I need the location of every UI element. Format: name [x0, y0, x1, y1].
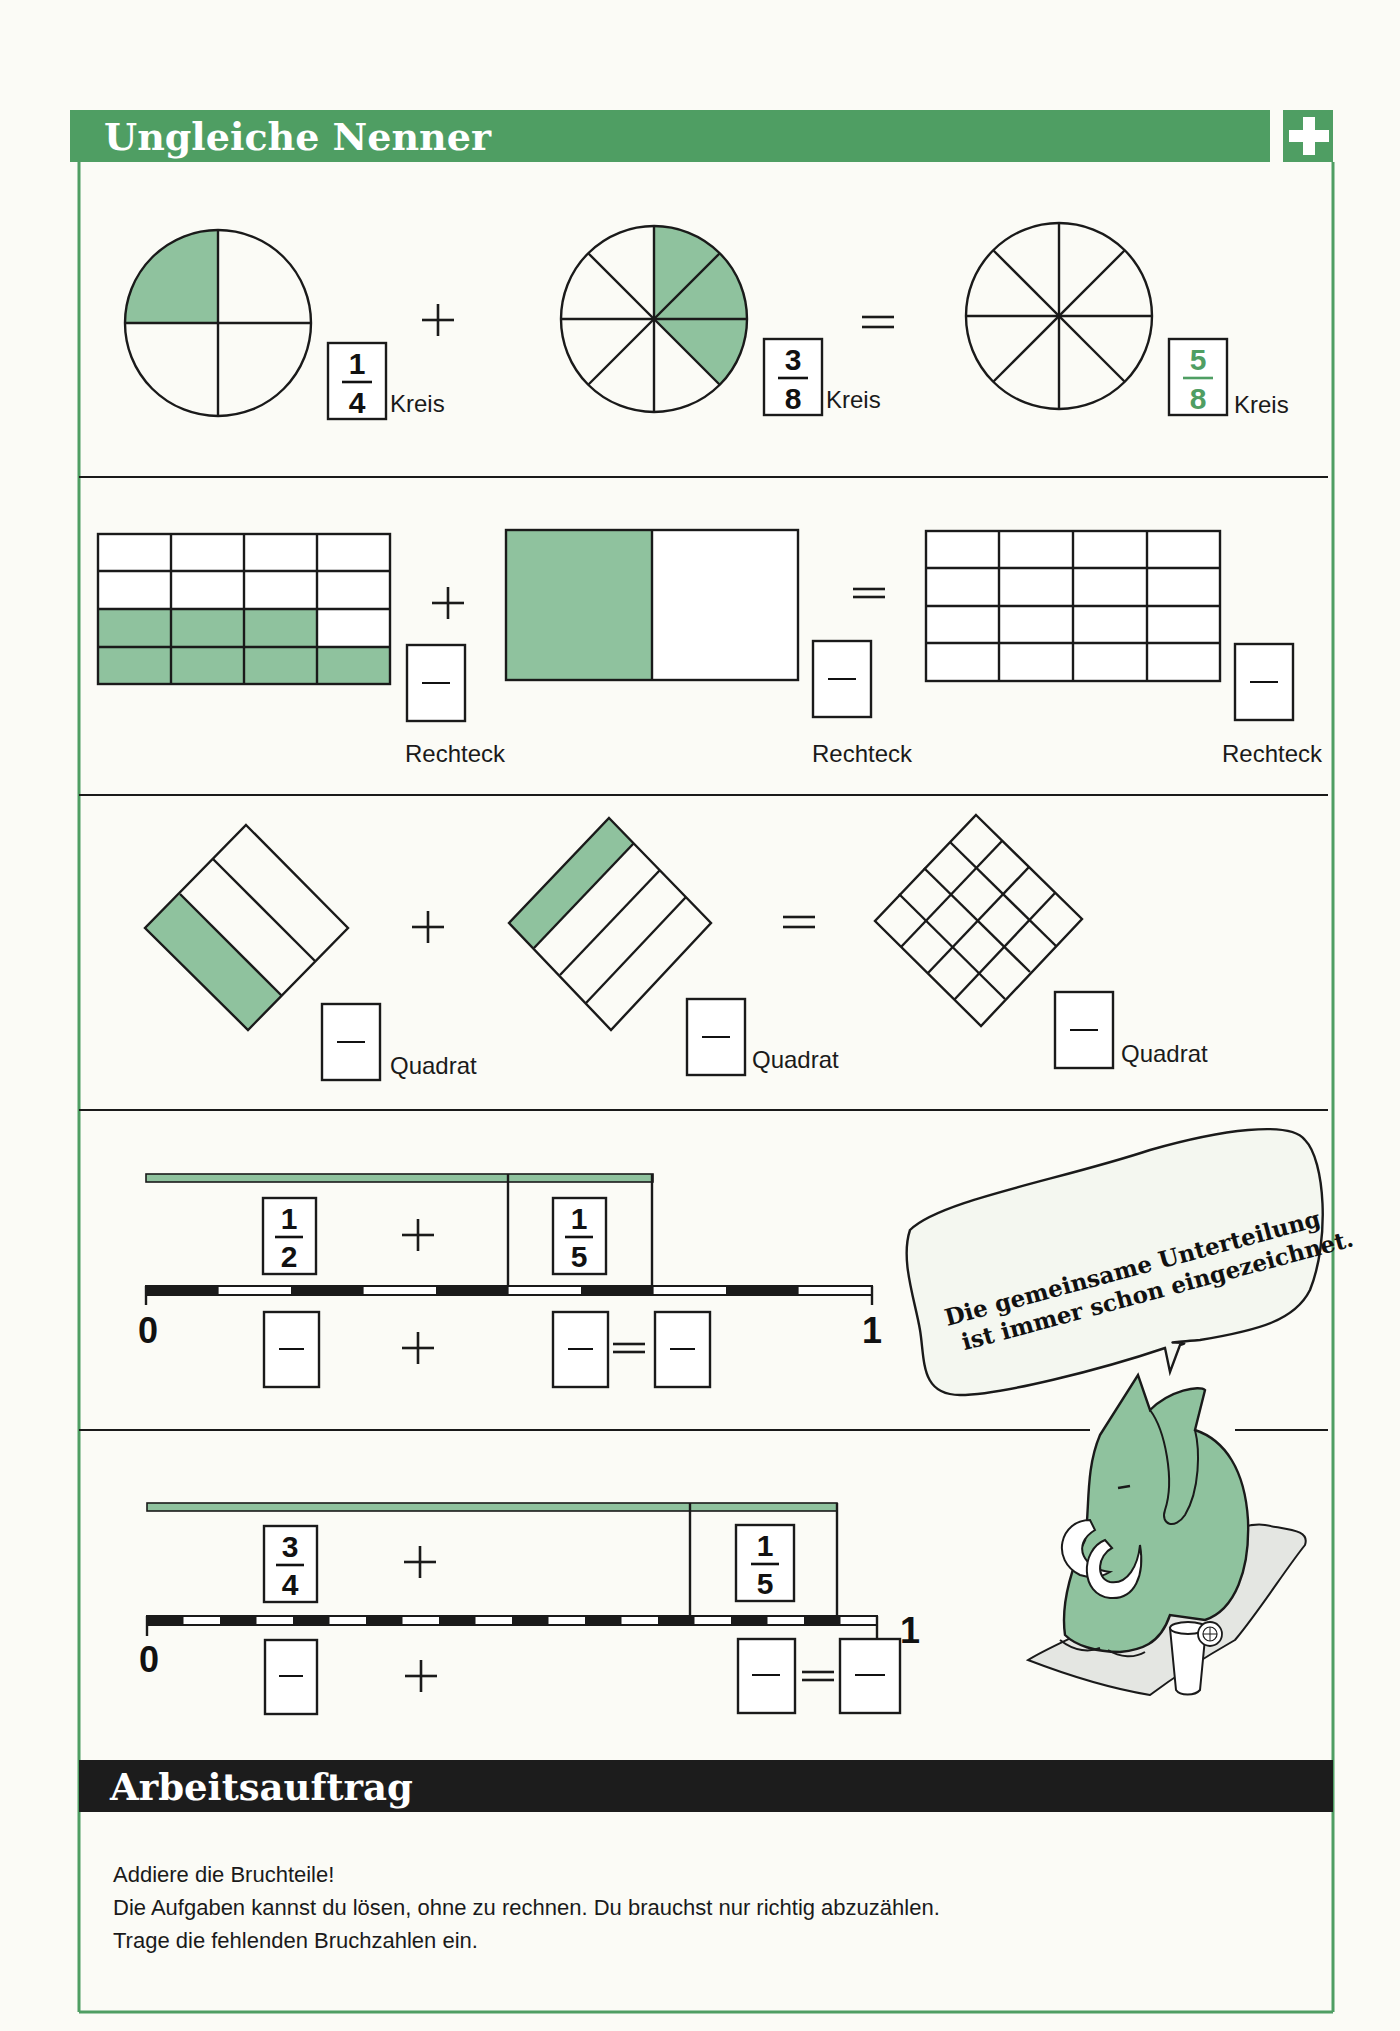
svg-text:3: 3 — [785, 343, 802, 376]
shape-label: Rechteck — [812, 740, 913, 767]
fraction-input-box[interactable] — [1055, 992, 1113, 1068]
square-quarters — [509, 818, 711, 1030]
assignment-banner: Arbeitsauftrag — [79, 1760, 1333, 1812]
fraction-box: 1 2 — [263, 1198, 316, 1274]
fraction-box: 1 5 — [736, 1525, 794, 1601]
plus-operator — [432, 587, 464, 619]
square-thirds — [145, 825, 348, 1030]
fraction-box: 3 8 — [764, 339, 822, 415]
svg-text:1: 1 — [349, 347, 366, 380]
fraction-input-box[interactable] — [553, 1312, 608, 1387]
plus-operator — [402, 1219, 434, 1251]
fraction-input-box[interactable] — [813, 641, 871, 717]
plus-operator — [405, 1660, 437, 1692]
cup-icon — [1170, 1622, 1222, 1695]
svg-text:1: 1 — [281, 1202, 298, 1235]
start-label: 0 — [139, 1639, 159, 1680]
svg-text:1: 1 — [571, 1202, 588, 1235]
equals-operator — [853, 589, 885, 597]
number-line-half-fifth: 0 1 1 2 1 5 — [138, 1174, 882, 1387]
instruction-line: Trage die fehlenden Bruchzahlen ein. — [113, 1924, 940, 1957]
row-circles: 1 4 Kreis 3 8 Kreis — [125, 223, 1289, 419]
rectangle-halves — [506, 530, 798, 680]
square-grid-empty — [875, 815, 1082, 1026]
svg-text:5: 5 — [571, 1240, 588, 1273]
svg-text:1: 1 — [757, 1529, 774, 1562]
circle-eighths-empty — [966, 223, 1152, 409]
svg-text:5: 5 — [1190, 343, 1207, 376]
shape-label: Quadrat — [1121, 1040, 1208, 1067]
equals-operator — [862, 317, 894, 327]
number-line-three-quarters-fifth: 0 1 3 4 1 5 — [139, 1503, 920, 1714]
fraction-input-box[interactable] — [265, 1640, 317, 1714]
svg-text:3: 3 — [282, 1530, 299, 1563]
circle-quarters — [125, 230, 311, 416]
end-label: 1 — [862, 1310, 882, 1351]
fraction-box: 1 5 — [553, 1198, 606, 1274]
row-rectangles: Rechteck Rechteck — [98, 530, 1323, 767]
fraction-input-box[interactable] — [840, 1639, 900, 1713]
page-title: Ungleiche Nenner — [104, 114, 492, 159]
plus-badge — [1283, 110, 1333, 162]
plus-operator — [422, 304, 454, 336]
assignment-instructions: Addiere die Bruchteile! Die Aufgaben kan… — [113, 1858, 940, 1957]
plus-operator — [402, 1332, 434, 1364]
equals-operator — [613, 1344, 645, 1352]
svg-text:8: 8 — [785, 382, 802, 415]
svg-text:4: 4 — [349, 386, 366, 419]
mammoth-icon — [1028, 1375, 1306, 1695]
svg-text:5: 5 — [757, 1567, 774, 1600]
equals-operator — [802, 1672, 834, 1680]
worksheet-canvas: Ungleiche Nenner 1 4 Kreis — [0, 0, 1400, 2031]
fraction-box: 1 4 — [328, 343, 386, 419]
title-banner: Ungleiche Nenner — [70, 110, 1270, 162]
speech-bubble: Die gemeinsame Unterteilung ist immer sc… — [907, 1129, 1356, 1395]
assignment-title: Arbeitsauftrag — [109, 1765, 413, 1809]
shape-label: Kreis — [390, 390, 445, 417]
shape-label: Rechteck — [405, 740, 506, 767]
shape-label: Quadrat — [390, 1052, 477, 1079]
shape-label: Rechteck — [1222, 740, 1323, 767]
svg-text:4: 4 — [282, 1568, 299, 1601]
fraction-input-box[interactable] — [738, 1639, 795, 1713]
plus-operator — [412, 911, 444, 943]
fraction-input-box[interactable] — [687, 999, 745, 1075]
plus-operator — [404, 1546, 436, 1578]
fraction-input-box[interactable] — [407, 645, 465, 721]
svg-text:8: 8 — [1190, 382, 1207, 415]
rectangle-grid-shaded — [98, 534, 390, 684]
shape-label: Kreis — [1234, 391, 1289, 418]
end-label: 1 — [900, 1610, 920, 1651]
worksheet-frame — [79, 162, 1333, 2012]
rectangle-grid-empty — [926, 531, 1220, 681]
shape-label: Kreis — [826, 386, 881, 413]
fraction-input-box[interactable] — [1235, 644, 1293, 720]
circle-eighths-shaded — [561, 226, 747, 412]
instruction-line: Addiere die Bruchteile! — [113, 1858, 940, 1891]
fraction-input-box[interactable] — [655, 1312, 710, 1387]
fraction-input-box[interactable] — [322, 1004, 380, 1080]
svg-text:2: 2 — [281, 1240, 298, 1273]
row-squares: Quadrat Quadrat — [145, 815, 1208, 1080]
start-label: 0 — [138, 1310, 158, 1351]
fraction-box-answer: 5 8 — [1169, 339, 1227, 415]
fraction-input-box[interactable] — [264, 1312, 319, 1387]
instruction-line: Die Aufgaben kannst du lösen, ohne zu re… — [113, 1891, 940, 1924]
fraction-box: 3 4 — [264, 1526, 317, 1602]
equals-operator — [783, 917, 815, 927]
shape-label: Quadrat — [752, 1046, 839, 1073]
